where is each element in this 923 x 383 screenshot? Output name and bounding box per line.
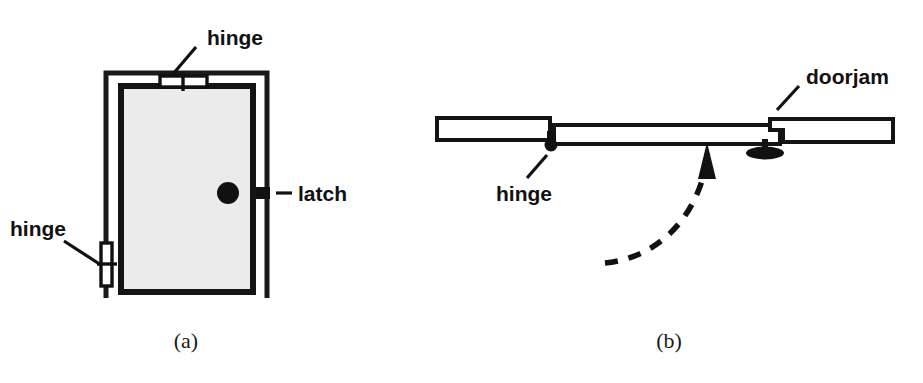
label-latch: latch xyxy=(298,182,347,205)
caption-panel-a: (a) xyxy=(174,328,198,353)
knob-pin-base xyxy=(746,147,784,160)
label-doorjam: doorjam xyxy=(806,65,889,88)
right-doorjam-bar xyxy=(770,119,893,142)
latch-mark-icon xyxy=(256,187,270,199)
left-jamb-bar xyxy=(437,118,550,140)
hinge-pivot-neck xyxy=(547,131,556,144)
caption-panel-b: (b) xyxy=(656,328,682,353)
door-leaf-bar xyxy=(554,125,780,144)
door-knob-icon xyxy=(217,182,239,204)
label-hinge-top: hinge xyxy=(207,26,263,49)
hinge-top-icon xyxy=(160,72,207,91)
label-hinge-b: hinge xyxy=(496,182,552,205)
door-diagram-svg: hinge hinge latch (a) xyxy=(0,0,923,383)
figure-root: hinge hinge latch (a) xyxy=(0,0,923,383)
label-hinge-left: hinge xyxy=(10,217,66,240)
